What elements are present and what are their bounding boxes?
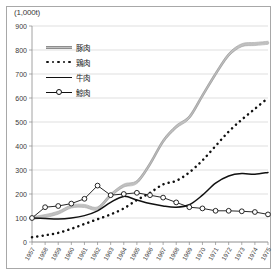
series-marker-whale bbox=[30, 216, 35, 221]
legend-swatch-beef bbox=[46, 72, 72, 84]
y-axis-tick-label: 200 bbox=[15, 191, 27, 198]
y-axis-tick-label: 0 bbox=[23, 239, 27, 246]
x-axis-tick-label: 1971 bbox=[207, 246, 220, 262]
x-axis-tick-label: 1958 bbox=[36, 246, 49, 262]
y-axis-tick-label: 700 bbox=[15, 71, 27, 78]
series-marker-whale bbox=[108, 193, 113, 198]
series-marker-whale bbox=[134, 190, 139, 195]
y-axis-tick-label: 600 bbox=[15, 95, 27, 102]
series-line-chicken bbox=[32, 98, 268, 237]
x-axis-tick-label: 1968 bbox=[167, 246, 180, 262]
series-marker-whale bbox=[82, 196, 87, 201]
chart-plot-area: 0100200300400500600700800900195719581959… bbox=[0, 0, 279, 277]
series-marker-whale bbox=[148, 193, 153, 198]
legend-label-pork: 豚肉 bbox=[76, 42, 90, 53]
legend-label-whale: 鯨肉 bbox=[76, 87, 90, 98]
legend-swatch-whale bbox=[46, 87, 72, 99]
x-axis-tick-label: 1961 bbox=[76, 246, 89, 262]
legend-item-whale: 鯨肉 bbox=[46, 85, 90, 100]
x-axis-tick-label: 1969 bbox=[180, 246, 193, 262]
legend-swatch-pork bbox=[46, 42, 72, 54]
series-marker-whale bbox=[95, 183, 100, 188]
line-chart: 0100200300400500600700800900195719581959… bbox=[0, 0, 279, 277]
legend-item-pork: 豚肉 bbox=[46, 40, 90, 55]
legend-label-chicken: 鶏肉 bbox=[76, 57, 90, 68]
legend-item-chicken: 鶏肉 bbox=[46, 55, 90, 70]
series-marker-whale bbox=[226, 208, 231, 213]
legend-item-beef: 牛肉 bbox=[46, 70, 90, 85]
y-axis-tick-label: 400 bbox=[15, 143, 27, 150]
x-axis-tick-label: 1962 bbox=[89, 246, 102, 262]
series-line-whale bbox=[32, 186, 268, 218]
series-marker-whale bbox=[213, 208, 218, 213]
series-marker-whale bbox=[43, 205, 48, 210]
series-marker-whale bbox=[69, 201, 74, 206]
series-marker-whale bbox=[121, 192, 126, 197]
x-axis-tick-label: 1973 bbox=[233, 246, 246, 262]
legend-label-beef: 牛肉 bbox=[76, 72, 90, 83]
chart-legend: 豚肉 鶏肉 牛肉 鯨肉 bbox=[46, 40, 90, 100]
series-marker-whale bbox=[266, 212, 271, 217]
series-marker-whale bbox=[239, 209, 244, 214]
x-axis-tick-label: 1972 bbox=[220, 246, 233, 262]
series-marker-whale bbox=[174, 200, 179, 205]
x-axis-tick-label: 1964 bbox=[115, 246, 128, 262]
x-axis-tick-label: 1959 bbox=[49, 246, 62, 262]
x-axis-tick-label: 1974 bbox=[246, 246, 259, 262]
series-marker-whale bbox=[161, 195, 166, 200]
series-marker-whale bbox=[56, 204, 61, 209]
x-axis-tick-label: 1960 bbox=[62, 246, 75, 262]
y-axis-tick-label: 900 bbox=[15, 23, 27, 30]
x-axis-tick-label: 1966 bbox=[141, 246, 154, 262]
x-axis-tick-label: 1963 bbox=[102, 246, 115, 262]
series-marker-whale bbox=[200, 206, 205, 211]
series-marker-whale bbox=[187, 205, 192, 210]
y-axis-tick-label: 500 bbox=[15, 119, 27, 126]
y-axis-tick-label: 300 bbox=[15, 167, 27, 174]
x-axis-tick-label: 1975 bbox=[259, 246, 272, 262]
series-marker-whale bbox=[252, 210, 257, 215]
y-axis-tick-label: 100 bbox=[15, 215, 27, 222]
y-axis-tick-label: 800 bbox=[15, 47, 27, 54]
x-axis-tick-label: 1965 bbox=[128, 246, 141, 262]
x-axis-tick-label: 1970 bbox=[194, 246, 207, 262]
x-axis-tick-label: 1957 bbox=[23, 246, 36, 262]
x-axis-tick-label: 1967 bbox=[154, 246, 167, 262]
legend-swatch-chicken bbox=[46, 57, 72, 69]
